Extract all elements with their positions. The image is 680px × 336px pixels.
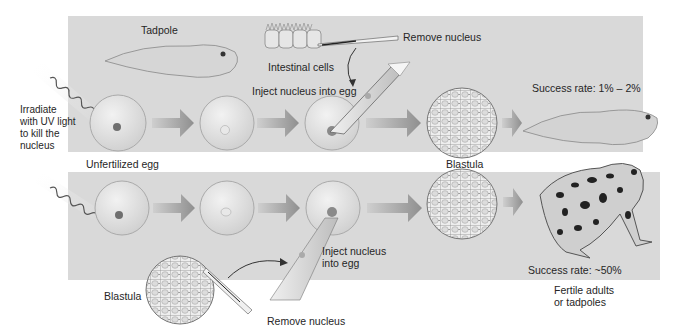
arrow-icon: [366, 109, 421, 137]
blastula-label-top: Blastula: [446, 158, 483, 170]
intestinal-cells-label: Intestinal cells: [268, 61, 334, 73]
arrow-icon: [152, 109, 194, 137]
frog-icon: [540, 163, 652, 258]
inject-nucleus-label-bottom: Inject nucleus into egg: [322, 245, 386, 269]
arrow-icon: [258, 194, 300, 222]
success-rate-top: Success rate: 1% – 2%: [532, 82, 641, 94]
intestinal-cells: [265, 23, 321, 48]
tadpole-label: Tadpole: [141, 24, 178, 36]
tadpole-result-icon: [523, 110, 658, 145]
remove-nucleus-label-top: Remove nucleus: [403, 31, 481, 43]
unfertilized-egg-label: Unfertilized egg: [86, 158, 159, 170]
arrow-icon: [153, 194, 195, 222]
egg-enucleated: [200, 181, 254, 235]
egg-irradiated: [95, 181, 149, 235]
blastula-label-bottom: Blastula: [104, 290, 141, 302]
egg-enucleated: [200, 96, 254, 150]
blastula-donor: [146, 256, 214, 324]
fertile-adults-label: Fertile adults or tadpoles: [554, 284, 614, 308]
inject-nucleus-label-top: Inject nucleus into egg: [252, 85, 357, 97]
irradiate-label: Irradiate with UV light to kill the nucl…: [20, 104, 76, 152]
arrow-icon: [367, 194, 422, 222]
blastula-bottom-result: [427, 169, 497, 239]
tadpole-donor-icon: [105, 45, 238, 77]
success-rate-bottom: Success rate: ~50%: [528, 264, 622, 276]
arrow-icon: [502, 109, 522, 137]
removal-pipette-icon: [318, 36, 398, 46]
egg-irradiated: [90, 95, 146, 151]
arrow-icon: [257, 109, 299, 137]
transfer-arrow: [228, 261, 283, 278]
arrow-icon: [503, 188, 523, 216]
remove-nucleus-label-bottom: Remove nucleus: [267, 315, 345, 327]
blastula-top: [427, 88, 497, 158]
transfer-arrow: [348, 48, 356, 84]
